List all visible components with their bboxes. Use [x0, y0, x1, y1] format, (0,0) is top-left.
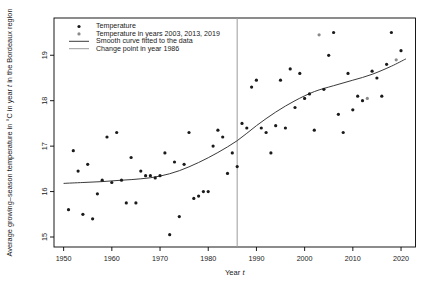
data-point	[245, 126, 248, 129]
data-point	[154, 176, 157, 179]
smooth-curve	[64, 59, 406, 183]
data-point	[274, 124, 277, 127]
data-point	[115, 131, 118, 134]
data-point	[351, 108, 354, 111]
data-point	[149, 174, 152, 177]
data-point	[346, 72, 349, 75]
data-point	[385, 63, 388, 66]
y-axis-tick-label: 17	[40, 142, 49, 150]
data-point	[231, 151, 234, 154]
data-point	[212, 145, 215, 148]
data-point	[236, 165, 239, 168]
scatter-plot: 1950196019701980199020002010202015161718…	[0, 0, 434, 293]
data-point	[289, 67, 292, 70]
x-axis-title: Year t	[225, 268, 245, 277]
data-point	[192, 197, 195, 200]
data-point	[86, 163, 89, 166]
legend-marker-point	[77, 25, 80, 28]
legend-marker-point	[77, 32, 80, 35]
data-point	[313, 129, 316, 132]
data-point	[168, 233, 171, 236]
data-point	[269, 151, 272, 154]
y-axis-tick-label: 18	[40, 97, 49, 105]
highlight-data-point	[366, 97, 369, 100]
data-point	[158, 174, 161, 177]
data-point	[105, 135, 108, 138]
x-axis-tick-label: 1990	[248, 254, 264, 263]
data-point	[178, 215, 181, 218]
data-point	[77, 170, 80, 173]
data-point	[101, 179, 104, 182]
data-point	[139, 170, 142, 173]
data-point	[96, 192, 99, 195]
x-axis-tick-label: 2000	[297, 254, 313, 263]
data-point	[356, 95, 359, 98]
data-point	[390, 31, 393, 34]
data-point	[250, 86, 253, 89]
data-point	[72, 149, 75, 152]
data-point	[183, 163, 186, 166]
data-point	[375, 76, 378, 79]
data-point	[293, 106, 296, 109]
x-axis-tick-label: 2020	[393, 254, 409, 263]
data-point	[125, 201, 128, 204]
data-point	[221, 135, 224, 138]
data-point	[322, 88, 325, 91]
data-point	[399, 49, 402, 52]
data-point	[144, 174, 147, 177]
x-axis-tick-label: 1980	[200, 254, 216, 263]
data-point	[380, 95, 383, 98]
data-point	[308, 92, 311, 95]
legend-label: Change point in year 1986	[96, 45, 179, 53]
data-point	[226, 172, 229, 175]
data-point	[207, 190, 210, 193]
data-point	[130, 156, 133, 159]
data-point	[327, 54, 330, 57]
y-axis-tick-label: 15	[40, 233, 49, 241]
data-point	[91, 217, 94, 220]
highlight-data-point	[395, 58, 398, 61]
data-point	[216, 129, 219, 132]
data-point	[265, 131, 268, 134]
data-point	[361, 99, 364, 102]
highlight-data-point	[318, 33, 321, 36]
x-axis-tick-label: 1950	[56, 254, 72, 263]
data-point	[81, 213, 84, 216]
data-point	[197, 195, 200, 198]
data-point	[298, 72, 301, 75]
x-axis-tick-label: 1960	[104, 254, 120, 263]
data-point	[120, 179, 123, 182]
data-point	[342, 131, 345, 134]
data-point	[202, 190, 205, 193]
x-axis-tick-label: 1970	[152, 254, 168, 263]
data-point	[240, 122, 243, 125]
x-axis-tick-label: 2010	[345, 254, 361, 263]
y-axis-tick-label: 16	[40, 188, 49, 196]
y-axis-tick-label: 19	[40, 51, 49, 59]
data-point	[279, 79, 282, 82]
bordeaux-temperature-figure: 1950196019701980199020002010202015161718…	[0, 0, 434, 293]
data-point	[337, 113, 340, 116]
y-axis-title: Average growing–season temperature in °C…	[5, 8, 14, 256]
data-point	[173, 160, 176, 163]
data-point	[371, 70, 374, 73]
data-point	[332, 31, 335, 34]
data-point	[303, 97, 306, 100]
data-point	[260, 126, 263, 129]
data-point	[67, 208, 70, 211]
data-point	[255, 79, 258, 82]
data-point	[187, 131, 190, 134]
data-point	[134, 201, 137, 204]
data-point	[110, 181, 113, 184]
data-point	[284, 126, 287, 129]
data-point	[163, 151, 166, 154]
